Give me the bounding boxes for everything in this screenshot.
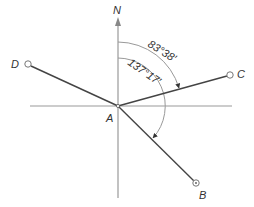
line-ab bbox=[118, 106, 194, 181]
point-c-label: C bbox=[237, 68, 245, 80]
north-label: N bbox=[113, 4, 121, 16]
point-a-label: A bbox=[105, 112, 113, 124]
point-d-label: D bbox=[11, 58, 19, 70]
point-c-marker bbox=[227, 72, 233, 78]
point-d-marker bbox=[25, 61, 31, 67]
point-a-marker bbox=[116, 104, 119, 107]
angle-label-ab: 137°17′ bbox=[126, 56, 164, 88]
point-b-label: B bbox=[199, 189, 206, 201]
bearing-diagram: N A B C D 83°38′ 137°17′ bbox=[0, 0, 254, 207]
line-ac bbox=[118, 76, 227, 106]
line-ad bbox=[31, 66, 118, 106]
point-b-center bbox=[195, 182, 197, 184]
north-arrow-icon bbox=[115, 17, 121, 26]
